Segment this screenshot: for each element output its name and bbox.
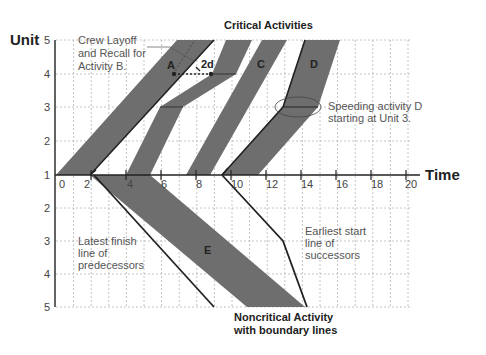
label-a: A (167, 59, 175, 71)
earliest-note-2: line of (305, 237, 335, 249)
latest-note-2: line of (78, 247, 108, 259)
title-critical: Critical Activities (224, 19, 313, 31)
speeding-note-1: Speeding activity D (328, 100, 422, 112)
y-tick-lower-5: 5 (44, 301, 50, 313)
y-tick-4: 4 (44, 68, 50, 80)
speeding-note-2: starting at Unit 3. (328, 112, 411, 124)
y-tick-3: 3 (44, 101, 50, 113)
x-axis-label: Time (425, 166, 460, 183)
crew-note-3: Activity B. (78, 60, 126, 72)
earliest-note-3: successors (305, 249, 361, 261)
x-tick-14: 14 (301, 178, 313, 190)
label-e: E (204, 244, 211, 256)
x-tick-12: 12 (266, 178, 278, 190)
x-tick-0: 0 (59, 178, 65, 190)
linear-schedule-chart: 0 2 4 6 8 10 12 14 16 18 20 1 2 3 4 5 2 … (0, 0, 486, 355)
x-tick-8: 8 (196, 178, 202, 190)
y-tick-lower-4: 4 (44, 268, 50, 280)
x-tick-6: 6 (161, 178, 167, 190)
label-2d: 2d (201, 58, 214, 70)
title-noncritical-2: with boundary lines (233, 324, 337, 336)
x-tick-18: 18 (371, 178, 383, 190)
latest-note-1: Latest finish (78, 235, 137, 247)
crew-note-2: and Recall for (78, 47, 146, 59)
x-tick-16: 16 (336, 178, 348, 190)
x-tick-10: 10 (231, 178, 243, 190)
y-tick-1: 1 (44, 169, 50, 181)
label-d: D (310, 58, 318, 70)
crew-note-1: Crew Layoff (78, 34, 137, 46)
label-c: C (257, 58, 265, 70)
y-tick-lower-2: 2 (44, 202, 50, 214)
y-tick-lower-3: 3 (44, 235, 50, 247)
earliest-note-1: Earliest start (305, 225, 366, 237)
y-tick-5: 5 (44, 34, 50, 46)
y-tick-2: 2 (44, 135, 50, 147)
title-noncritical-1: Noncritical Activity (234, 311, 334, 323)
x-tick-2: 2 (84, 178, 90, 190)
y-axis-label: Unit (10, 31, 39, 48)
x-tick-4: 4 (127, 178, 133, 190)
latest-note-3: predecessors (78, 259, 145, 271)
x-tick-20: 20 (405, 178, 417, 190)
